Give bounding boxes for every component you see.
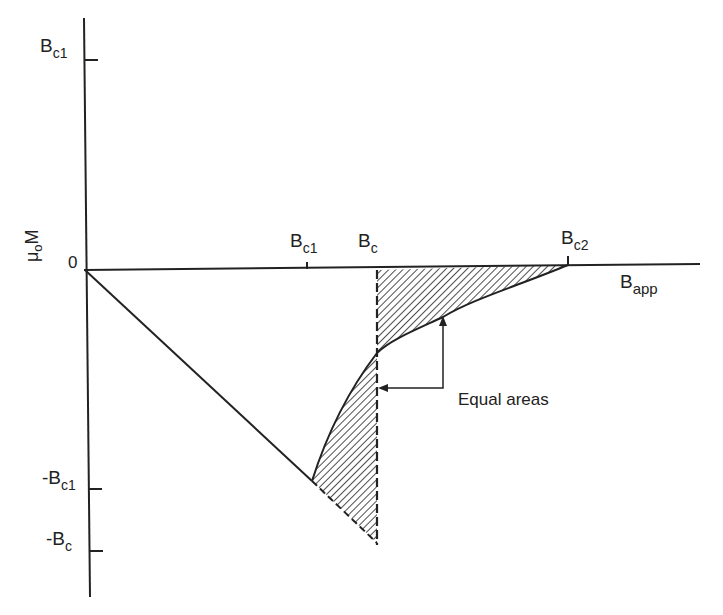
y-axis [84,18,90,597]
y-tick-label-zero: 0 [68,253,77,272]
magnetization-diagram: Bc1 0 -Bc1 -Bc μoM Bc1 Bc Bc2 Bapp Equal… [0,0,723,615]
y-tick-label-neg-bc1: -Bc1 [42,467,76,493]
y-tick-label-neg-bc: -Bc [46,528,72,554]
equal-areas-label: Equal areas [458,390,549,409]
x-tick-label-bc1: Bc1 [290,230,318,256]
x-tick-label-bc2: Bc2 [561,227,589,253]
x-axis [84,264,700,270]
y-axis-label: μoM [22,229,45,262]
x-tick-label-bc: Bc [358,230,378,256]
upper-hatched-area [377,265,568,353]
arrow-left-icon [378,384,388,392]
y-tick-label-bc1: Bc1 [40,35,68,61]
lower-hatched-area [312,353,377,543]
meissner-line [85,270,312,481]
x-axis-label: Bapp [620,271,658,297]
